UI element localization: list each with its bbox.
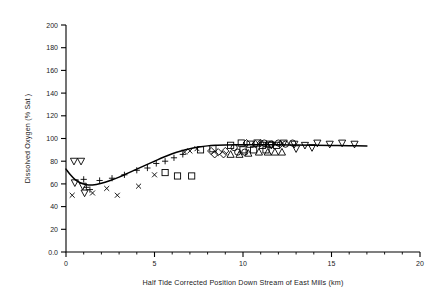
x-axis-title: Half Tide Corrected Position Down Stream…: [143, 278, 344, 287]
y-tick-label: 20: [50, 226, 58, 233]
y-tick-label: 160: [46, 67, 58, 74]
y-tick-label: 80: [50, 158, 58, 165]
y-tick-label: 180: [46, 44, 58, 51]
y-tick-label: 0.0: [48, 249, 58, 256]
y-tick-label: 200: [46, 22, 58, 29]
chart-background: [0, 0, 435, 289]
dissolved-oxygen-scatter-plot: 0.020406080100120140160180200 05101520 D…: [0, 0, 435, 289]
x-tick-label: 10: [239, 260, 247, 267]
x-tick-label: 20: [416, 260, 424, 267]
y-tick-label: 140: [46, 90, 58, 97]
x-tick-label: 5: [153, 260, 157, 267]
y-tick-label: 100: [46, 135, 58, 142]
y-axis-title: Dissolved Oxygen (% Sat ): [23, 94, 32, 184]
y-tick-label: 60: [50, 181, 58, 188]
y-tick-label: 120: [46, 112, 58, 119]
chart-figure: 0.020406080100120140160180200 05101520 D…: [0, 0, 435, 289]
x-tick-label: 0: [64, 260, 68, 267]
x-tick-label: 15: [328, 260, 336, 267]
y-tick-label: 40: [50, 203, 58, 210]
